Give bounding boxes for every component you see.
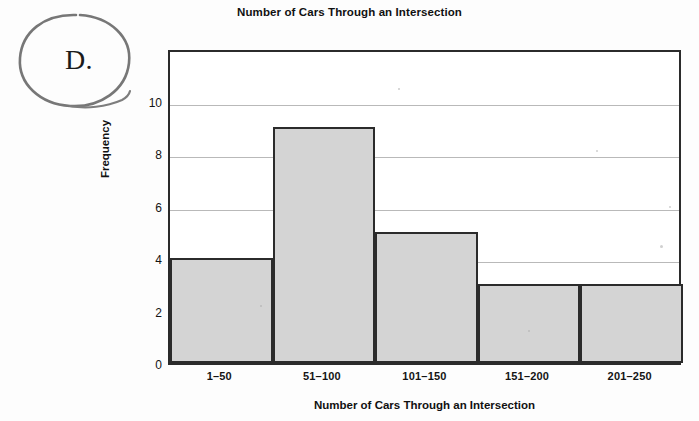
x-tick-label: 101–150 bbox=[373, 370, 476, 382]
option-letter: D. bbox=[14, 8, 138, 112]
bar bbox=[273, 127, 376, 363]
y-tick-label: 4 bbox=[132, 253, 162, 267]
y-tick-label: 10 bbox=[132, 96, 162, 110]
bar bbox=[478, 284, 581, 363]
bars-layer bbox=[170, 52, 679, 363]
x-axis-tick-labels: 1–5051–100101–150151–200201–250 bbox=[168, 370, 681, 390]
x-axis-title: Number of Cars Through an Intersection bbox=[168, 399, 681, 411]
scan-speck bbox=[669, 206, 671, 208]
y-tick-label: 8 bbox=[132, 148, 162, 162]
y-axis-title: Frequency bbox=[99, 84, 111, 214]
bar bbox=[375, 232, 478, 363]
scan-speck bbox=[260, 305, 262, 307]
scan-speck bbox=[660, 245, 663, 248]
y-tick-label: 2 bbox=[132, 306, 162, 320]
x-tick-label: 201–250 bbox=[578, 370, 681, 382]
scan-speck bbox=[528, 330, 530, 332]
scan-speck bbox=[398, 88, 400, 90]
scan-speck bbox=[596, 150, 598, 152]
x-tick-label: 51–100 bbox=[271, 370, 374, 382]
option-marker: D. bbox=[14, 8, 138, 112]
bar bbox=[170, 258, 273, 363]
x-tick-label: 1–50 bbox=[168, 370, 271, 382]
x-tick-label: 151–200 bbox=[476, 370, 579, 382]
bar bbox=[580, 284, 683, 363]
y-axis-tick-labels: 0246810 bbox=[128, 50, 162, 365]
plot-area bbox=[168, 50, 681, 365]
chart-title: Number of Cars Through an Intersection bbox=[0, 6, 699, 18]
y-tick-label: 0 bbox=[132, 358, 162, 372]
y-tick-label: 6 bbox=[132, 201, 162, 215]
